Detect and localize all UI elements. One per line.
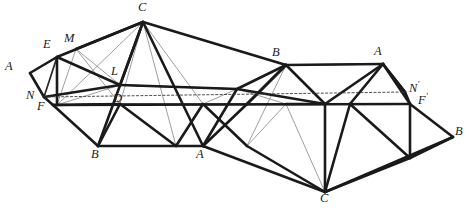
dotted-axis-line [44,92,405,97]
fold-edge [383,64,405,92]
fold-edge [120,85,237,89]
thick-edge-group [30,22,453,192]
fold-edge [53,105,98,146]
fold-edge [76,22,143,49]
prime-mark: ' [417,79,419,89]
label-B-top: B [272,46,280,59]
fold-edge [143,22,286,65]
label-E: E [43,38,51,51]
label-F-prime: F' [418,92,428,107]
fold-edge [325,158,410,192]
thin-edge [57,85,120,105]
fold-edge [237,65,286,89]
label-C-bottom: C [320,192,328,205]
label-N: N [26,89,34,102]
fold-edge [286,64,383,65]
fold-edge [410,104,453,137]
fold-edge [247,146,325,192]
geometry-figure: AEMCBAN'F'BNFLDBAC [0,0,469,212]
thin-edge [143,22,176,146]
fold-edge [44,85,120,97]
label-A-topright: A [374,45,382,58]
dotted-edge-group [44,92,405,97]
label-A-bottom: A [196,148,204,161]
fold-edge [410,137,453,158]
fold-edge [98,104,120,146]
fold-edge [53,104,410,105]
label-M: M [64,32,74,45]
prime-mark: ' [426,91,428,101]
label-B-bottom: B [91,148,99,161]
fold-edge [44,97,53,105]
fold-edge [325,104,350,192]
fold-edge [120,104,176,146]
label-C-top: C [138,1,146,14]
label-F: F [37,100,45,113]
fold-edge [350,104,410,158]
fold-edge [203,146,325,192]
label-L: L [111,65,118,78]
label-B-right: B [455,125,463,138]
thin-edge [143,22,203,104]
label-D: D [113,92,122,105]
label-A-left: A [5,60,13,73]
thin-edge [247,104,286,146]
